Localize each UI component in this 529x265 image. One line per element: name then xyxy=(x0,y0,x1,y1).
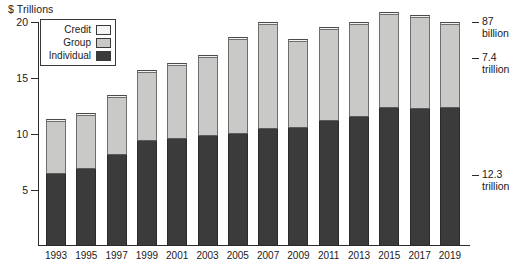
annotation-group-unit: trillion xyxy=(482,64,509,76)
annotation-credit: 87 billion xyxy=(482,16,509,39)
x-axis-label-2017: 2017 xyxy=(403,250,437,261)
legend-item-group: Group xyxy=(44,36,111,49)
legend-label-group: Group xyxy=(63,36,91,49)
x-axis-label-1999: 1999 xyxy=(130,250,164,261)
legend-swatch-individual-icon xyxy=(96,51,111,61)
legend-label-credit: Credit xyxy=(64,23,91,36)
legend-swatch-credit-icon xyxy=(96,25,111,35)
x-axis-label-2007: 2007 xyxy=(251,250,285,261)
x-axis-label-1993: 1993 xyxy=(39,250,73,261)
legend-label-individual: Individual xyxy=(49,49,91,62)
stacked-bar-chart: $ Trillions 20 15 10 5 19931995199719992… xyxy=(0,0,529,265)
x-axis-label-1995: 1995 xyxy=(69,250,103,261)
x-axis-label-2015: 2015 xyxy=(372,250,406,261)
legend-item-credit: Credit xyxy=(44,23,111,36)
x-axis-label-2011: 2011 xyxy=(312,250,346,261)
annotation-tick-individual xyxy=(472,175,479,176)
x-axis-label-2001: 2001 xyxy=(160,250,194,261)
legend-swatch-group-icon xyxy=(96,38,111,48)
annotation-group-value: 7.4 xyxy=(482,52,509,64)
x-axis-label-1997: 1997 xyxy=(100,250,134,261)
x-axis-label-2005: 2005 xyxy=(221,250,255,261)
annotation-group: 7.4 trillion xyxy=(482,52,509,75)
x-axis-label-2019: 2019 xyxy=(433,250,467,261)
annotation-individual-unit: trillion xyxy=(482,181,509,193)
legend-item-individual: Individual xyxy=(44,49,111,62)
annotation-credit-unit: billion xyxy=(482,28,509,40)
x-axis-label-2003: 2003 xyxy=(191,250,225,261)
annotation-tick-group xyxy=(472,58,479,59)
annotation-credit-value: 87 xyxy=(482,16,509,28)
annotation-individual-value: 12.3 xyxy=(482,169,509,181)
x-axis-label-2013: 2013 xyxy=(342,250,376,261)
chart-legend: Credit Group Individual xyxy=(40,19,116,66)
x-axis-label-2009: 2009 xyxy=(281,250,315,261)
annotation-tick-credit xyxy=(472,22,479,23)
annotation-individual: 12.3 trillion xyxy=(482,169,509,192)
